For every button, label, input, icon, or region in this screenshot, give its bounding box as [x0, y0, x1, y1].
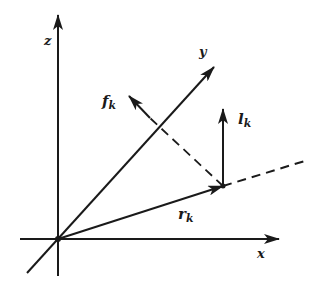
y-axis-label: y	[199, 45, 207, 58]
x-axis-label: x	[257, 247, 265, 260]
r-k-label-base: r	[178, 205, 186, 223]
f-k-vector	[129, 96, 150, 118]
l-k-label-subscript: k	[244, 117, 251, 130]
y-axis	[27, 67, 214, 273]
f-k-label: fk	[102, 94, 116, 111]
z-axis-label: z	[44, 34, 51, 47]
f-k-dashed-projection	[150, 118, 223, 186]
origin-point	[55, 236, 61, 242]
r-k-label-subscript: k	[186, 212, 193, 225]
l-k-label: lk	[238, 112, 251, 129]
coordinate-diagram: z x y rk lk fk	[0, 0, 323, 286]
r-k-label: rk	[178, 207, 193, 224]
r-k-endpoint	[221, 184, 226, 189]
f-k-label-subscript: k	[108, 99, 115, 112]
r-k-dashed-extension	[223, 160, 308, 186]
